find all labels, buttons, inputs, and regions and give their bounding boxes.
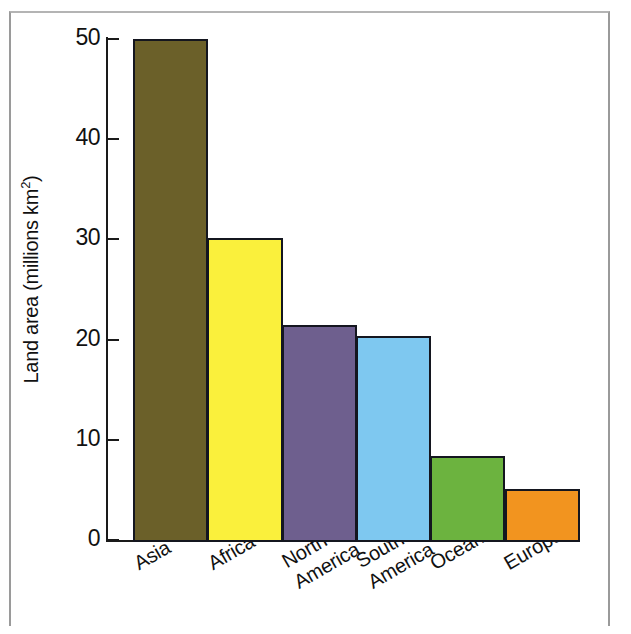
bar-south-america[interactable] (356, 336, 431, 542)
bar-europe[interactable] (505, 489, 580, 542)
y-axis-tick (108, 539, 119, 541)
bar-africa[interactable] (207, 238, 282, 542)
bar-asia[interactable] (133, 39, 208, 542)
x-axis-category-labels: AsiaAfricaNorthAmericaSouthAmericaOceani… (0, 545, 631, 634)
y-axis-tick-label: 50 (40, 24, 100, 51)
chart-page: Land area (millions km2) 50403020100 Asi… (0, 0, 631, 634)
bar-north-america[interactable] (282, 325, 357, 542)
y-axis-tick (108, 339, 119, 341)
y-axis-title-main: Land area (millions km (20, 189, 42, 384)
y-axis-line (106, 37, 108, 542)
bars-container (133, 39, 579, 542)
y-axis-tick (108, 138, 119, 140)
y-axis-title-close: ) (20, 176, 42, 182)
y-axis-tick (108, 238, 119, 240)
y-axis-tick-label: 10 (40, 425, 100, 452)
y-axis-tick-label: 30 (40, 224, 100, 251)
y-axis-tick (108, 439, 119, 441)
y-axis-tick-label: 40 (40, 124, 100, 151)
y-axis-tick-label: 20 (40, 325, 100, 352)
y-axis-title-superscript: 2 (18, 182, 33, 189)
bar-oceania[interactable] (430, 456, 505, 542)
y-axis-title: Land area (millions km2) (20, 130, 43, 430)
y-axis-tick (108, 38, 119, 40)
